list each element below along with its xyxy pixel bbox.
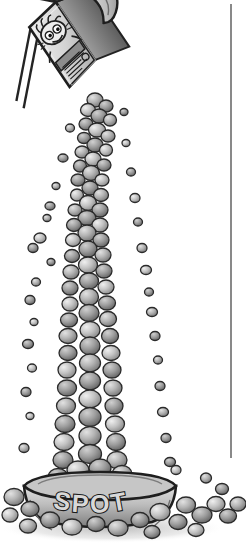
spot-bowl-illustration: SPOT	[0, 0, 246, 550]
illustration-canvas: Cereal box pouring kibble into a dog bow…	[0, 0, 246, 550]
bowl-label-spot: SPOT	[52, 485, 131, 518]
kibble-stream-middle	[62, 196, 116, 312]
